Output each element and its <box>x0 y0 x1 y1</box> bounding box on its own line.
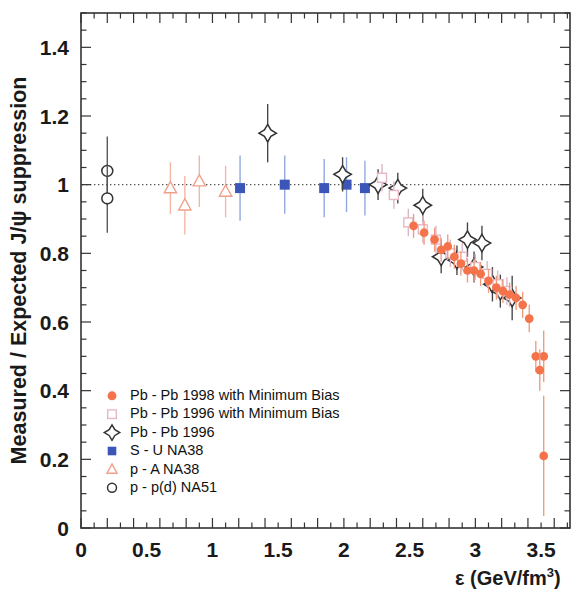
x-axis-epsilon: ε (GeV/fm <box>455 567 547 589</box>
data-point <box>531 352 540 361</box>
data-point <box>409 221 418 230</box>
data-point <box>389 190 398 199</box>
x-tick-label: 0 <box>75 538 87 561</box>
y-tick-label: 0 <box>57 517 69 540</box>
filled-circle-marker <box>512 294 521 303</box>
legend-marker-open-circle <box>108 483 117 492</box>
figure-root: 00.511.522.533.5 00.20.40.60.811.21.4 Me… <box>0 0 580 605</box>
filled-circle-marker <box>525 314 534 323</box>
data-point <box>443 242 452 251</box>
legend-label: p - p(d) NA51 <box>130 479 217 495</box>
filled-circle-marker <box>535 366 544 375</box>
filled-circle-marker <box>518 300 527 309</box>
y-tick-label: 1.4 <box>40 36 70 59</box>
x-tick-label: 2 <box>338 538 350 561</box>
y-axis-title: Measured / Expected J/ψ suppression <box>7 77 31 465</box>
data-point <box>235 183 245 193</box>
data-point <box>457 259 466 268</box>
filled-square-marker <box>280 180 290 190</box>
x-tick-label: 3 <box>470 538 482 561</box>
x-tick-label: 2.5 <box>395 538 425 561</box>
filled-circle-marker <box>531 352 540 361</box>
legend-marker-filled-circle <box>108 391 117 400</box>
data-point <box>430 235 439 244</box>
y-tick-label: 0.6 <box>40 311 69 334</box>
open-circle-marker <box>102 193 113 204</box>
x-tick-label: 1.5 <box>264 538 294 561</box>
data-point <box>378 173 387 182</box>
data-point <box>539 352 548 361</box>
filled-circle-marker <box>420 228 429 237</box>
data-point <box>518 300 527 309</box>
x-axis-paren: ) <box>554 567 561 589</box>
filled-circle-marker <box>443 242 452 251</box>
data-point <box>420 228 429 237</box>
x-tick-label: 0.5 <box>132 538 162 561</box>
legend-label: Pb - Pb 1996 with Minimum Bias <box>130 405 340 421</box>
y-tick-label: 0.8 <box>40 242 70 265</box>
data-point <box>484 276 493 285</box>
x-tick-label: 1 <box>207 538 219 561</box>
filled-square-marker <box>319 183 329 193</box>
legend-label: Pb - Pb 1998 with Minimum Bias <box>130 387 340 403</box>
open-circle-marker <box>108 483 117 492</box>
y-tick-label: 1 <box>57 173 69 196</box>
filled-circle-marker <box>457 259 466 268</box>
legend-marker-filled-square <box>108 447 117 456</box>
filled-circle-marker <box>450 252 459 261</box>
filled-square-marker <box>235 183 245 193</box>
data-point <box>512 294 521 303</box>
filled-circle-marker <box>108 391 117 400</box>
y-tick-label: 0.2 <box>40 448 69 471</box>
x-tick-label: 3.5 <box>526 538 556 561</box>
x-axis-title: ε (GeV/fm3) <box>455 565 561 589</box>
x-axis-exponent: 3 <box>547 565 554 580</box>
open-square-marker <box>378 173 387 182</box>
jpsi-suppression-scatter-plot: 00.511.522.533.5 00.20.40.60.811.21.4 Me… <box>0 0 580 605</box>
open-square-marker <box>108 410 117 419</box>
legend-label: Pb - Pb 1996 <box>130 424 215 440</box>
data-point <box>476 270 485 279</box>
filled-square-marker <box>108 447 117 456</box>
legend-marker-open-square <box>108 410 117 419</box>
data-point <box>525 314 534 323</box>
y-tick-label: 0.4 <box>40 379 70 402</box>
legend-item-1: Pb - Pb 1998 with Minimum Bias <box>108 387 340 403</box>
data-point <box>102 193 113 204</box>
filled-circle-marker <box>484 276 493 285</box>
data-point <box>539 452 548 461</box>
filled-circle-marker <box>409 221 418 230</box>
data-point <box>280 180 290 190</box>
filled-circle-marker <box>430 235 439 244</box>
legend-label: S - U NA38 <box>130 442 203 458</box>
filled-circle-marker <box>539 452 548 461</box>
figure-background <box>0 0 580 605</box>
data-point <box>319 183 329 193</box>
legend-item-2: Pb - Pb 1996 with Minimum Bias <box>108 405 340 421</box>
data-point <box>535 366 544 375</box>
y-tick-label: 1.2 <box>40 105 69 128</box>
data-point <box>450 252 459 261</box>
open-square-marker <box>389 190 398 199</box>
legend-label: p - A NA38 <box>130 461 199 477</box>
filled-circle-marker <box>539 352 548 361</box>
filled-circle-marker <box>476 270 485 279</box>
